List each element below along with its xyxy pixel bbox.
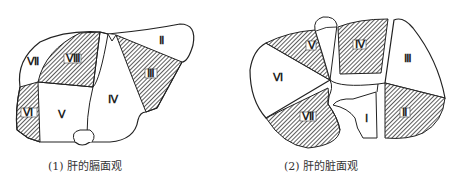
svg-text:Ⅲ: Ⅲ <box>147 67 155 79</box>
svg-text:Ⅶ: Ⅶ <box>301 110 314 122</box>
label-segment-6: Ⅵ <box>21 106 37 118</box>
label-segment-2: Ⅱ <box>159 34 164 46</box>
label-segment-3: Ⅲ <box>404 52 412 64</box>
label-segment-2: Ⅱ <box>400 106 410 118</box>
figure-liver-diaphragmatic-view: Ⅶ Ⅷ Ⅵ Ⅴ Ⅳ Ⅲ Ⅱ (1) 肝的膈面观 <box>0 0 230 181</box>
svg-text:Ⅱ: Ⅱ <box>402 106 407 118</box>
label-segment-5: Ⅴ <box>306 39 316 51</box>
label-segment-5: Ⅴ <box>57 108 66 120</box>
label-segment-4: Ⅳ <box>353 38 366 50</box>
svg-text:Ⅴ: Ⅴ <box>307 39 316 51</box>
svg-text:Ⅲ: Ⅲ <box>404 52 412 64</box>
svg-text:Ⅶ: Ⅶ <box>26 55 39 67</box>
label-segment-1: Ⅰ <box>365 112 368 124</box>
label-segment-6: Ⅵ <box>272 71 283 83</box>
figure-caption: (2) 肝的脏面观 <box>284 157 358 173</box>
label-segment-7: Ⅶ <box>26 55 39 67</box>
svg-text:Ⅵ: Ⅵ <box>272 71 283 83</box>
svg-text:Ⅳ: Ⅳ <box>355 38 366 50</box>
liver-diaphragmatic-diagram: Ⅶ Ⅷ Ⅵ Ⅴ Ⅳ Ⅲ Ⅱ <box>0 0 230 181</box>
svg-text:Ⅵ: Ⅵ <box>22 106 33 118</box>
svg-text:Ⅰ: Ⅰ <box>365 112 368 124</box>
svg-text:Ⅴ: Ⅴ <box>57 108 66 120</box>
label-segment-4: Ⅳ <box>108 93 119 105</box>
svg-text:Ⅱ: Ⅱ <box>159 34 164 46</box>
figure-liver-visceral-view: Ⅴ Ⅳ Ⅲ Ⅵ Ⅶ Ⅰ Ⅱ (2) 肝的脏面观 <box>228 0 458 181</box>
svg-text:Ⅷ: Ⅷ <box>65 52 80 64</box>
figure-caption: (1) 肝的膈面观 <box>48 157 122 173</box>
liver-visceral-diagram: Ⅴ Ⅳ Ⅲ Ⅵ Ⅶ Ⅰ Ⅱ <box>228 0 458 181</box>
label-segment-3: Ⅲ <box>145 67 157 79</box>
svg-text:Ⅳ: Ⅳ <box>108 93 119 105</box>
label-segment-7: Ⅶ <box>300 110 316 122</box>
label-segment-8: Ⅷ <box>64 52 81 64</box>
